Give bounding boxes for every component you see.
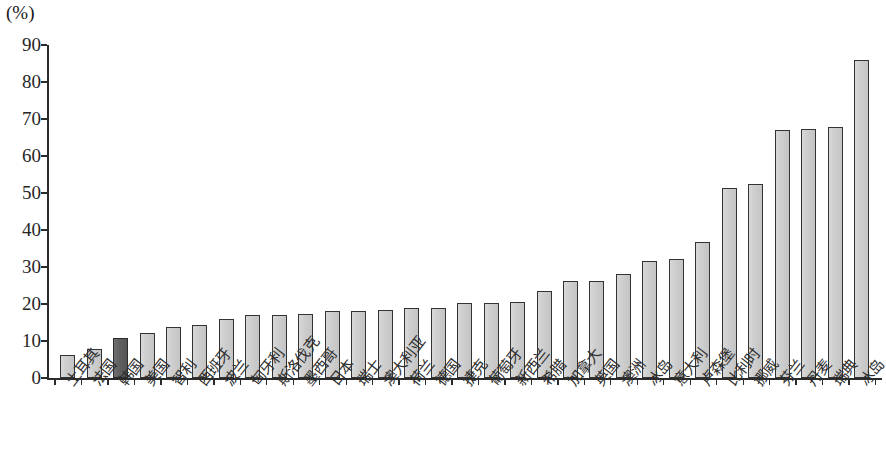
y-tick-80 <box>41 81 47 82</box>
y-axis-tick-labels: 0102030405060708090 <box>0 45 41 378</box>
y-tick-30 <box>41 266 47 267</box>
bar-27 <box>775 130 790 378</box>
y-axis-unit-label: (%) <box>6 2 34 24</box>
y-tick-label-40: 40 <box>4 220 41 239</box>
y-tick-label-70: 70 <box>4 109 41 128</box>
plot-area <box>47 45 882 378</box>
bar-23 <box>669 259 684 379</box>
bar-28 <box>801 129 816 378</box>
y-tick-90 <box>41 44 47 45</box>
y-tick-0 <box>41 377 47 378</box>
y-tick-70 <box>41 118 47 119</box>
y-axis-line <box>47 45 49 378</box>
y-tick-60 <box>41 155 47 156</box>
y-tick-label-10: 10 <box>4 331 41 350</box>
bar-22 <box>642 261 657 378</box>
y-tick-label-0: 0 <box>4 368 41 387</box>
y-tick-label-60: 60 <box>4 146 41 165</box>
y-tick-10 <box>41 340 47 341</box>
y-tick-40 <box>41 229 47 230</box>
y-tick-50 <box>41 192 47 193</box>
bar-30 <box>854 60 869 378</box>
y-tick-label-30: 30 <box>4 257 41 276</box>
y-tick-label-20: 20 <box>4 294 41 313</box>
bar-29 <box>828 127 843 378</box>
y-tick-20 <box>41 303 47 304</box>
y-tick-label-90: 90 <box>4 35 41 54</box>
y-tick-label-50: 50 <box>4 183 41 202</box>
y-tick-label-80: 80 <box>4 72 41 91</box>
bar-chart: (%) 0102030405060708090 土耳其法国韩国美国智利西班牙波兰… <box>0 0 886 464</box>
x-axis-category-labels: 土耳其法国韩国美国智利西班牙波兰匈牙利斯洛伐克墨西哥日本瑞士澳大利亚荷兰德国捷克… <box>47 380 886 464</box>
